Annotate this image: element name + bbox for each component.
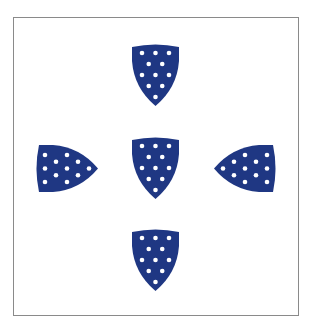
shield-left-bezant bbox=[43, 153, 48, 158]
shield-right-bezant bbox=[232, 173, 237, 178]
shield-left-bezant bbox=[43, 166, 48, 171]
shield-top-bezant bbox=[146, 84, 151, 89]
shield-top-bezant bbox=[140, 73, 145, 78]
shield-right-bezant bbox=[265, 166, 270, 171]
shield-top-bezant bbox=[167, 73, 172, 78]
shield-right-bezant bbox=[243, 166, 248, 171]
shield-bottom-bezant bbox=[146, 269, 151, 274]
shield-right-bezant bbox=[254, 173, 259, 178]
shield-top-bezant bbox=[146, 62, 151, 67]
shield-bottom-bezant bbox=[140, 258, 145, 263]
shield-center-bezant bbox=[140, 166, 145, 171]
shield-top-bezant bbox=[153, 73, 158, 78]
shield-center-bezant bbox=[153, 144, 158, 149]
shield-right-bezant bbox=[232, 159, 237, 164]
shield-left-bezant bbox=[54, 173, 59, 178]
shield-center-bezant bbox=[160, 155, 165, 160]
shield-right-bezant bbox=[265, 153, 270, 158]
shield-bottom-bezant bbox=[167, 258, 172, 263]
shield-bottom-bezant bbox=[160, 247, 165, 252]
shield-left-bezant bbox=[87, 166, 92, 171]
shield-center-bezant bbox=[167, 166, 172, 171]
shield-center-bezant bbox=[146, 177, 151, 182]
shield-center-bezant bbox=[160, 177, 165, 182]
shield-bottom-bezant bbox=[160, 269, 165, 274]
shield-top-bezant bbox=[140, 51, 145, 56]
shield-right-bezant bbox=[254, 159, 259, 164]
shield-bottom-bezant bbox=[140, 236, 145, 241]
shield-center-bezant bbox=[153, 188, 158, 193]
shield-center-bezant bbox=[146, 155, 151, 160]
shield-center bbox=[132, 138, 179, 200]
shield-bottom-bezant bbox=[146, 247, 151, 252]
shield-top bbox=[132, 45, 179, 107]
shield-right bbox=[214, 145, 276, 192]
shield-top-bezant bbox=[167, 51, 172, 56]
shield-top-bezant bbox=[153, 51, 158, 56]
shield-top-bezant bbox=[160, 84, 165, 89]
shield-top-bezant bbox=[153, 95, 158, 100]
shield-left-bezant bbox=[54, 159, 59, 164]
shield-left-bezant bbox=[76, 173, 81, 178]
shield-bottom-bezant bbox=[153, 280, 158, 285]
shield-right-bezant bbox=[221, 166, 226, 171]
shield-left-bezant bbox=[65, 180, 70, 185]
shield-center-bezant bbox=[140, 144, 145, 149]
shield-left-bezant bbox=[76, 159, 81, 164]
shield-right-bezant bbox=[243, 180, 248, 185]
shield-top-bezant bbox=[160, 62, 165, 67]
shield-bottom bbox=[132, 230, 179, 292]
shield-center-bezant bbox=[167, 144, 172, 149]
shield-left-bezant bbox=[43, 180, 48, 185]
shield-left-bezant bbox=[65, 166, 70, 171]
shield-left-bezant bbox=[65, 153, 70, 158]
shield-bottom-bezant bbox=[153, 236, 158, 241]
shield-center-bezant bbox=[153, 166, 158, 171]
quinas-figure bbox=[0, 0, 309, 332]
shield-bottom-bezant bbox=[167, 236, 172, 241]
shield-left bbox=[37, 145, 99, 192]
shield-right-bezant bbox=[243, 153, 248, 158]
shield-right-bezant bbox=[265, 180, 270, 185]
shield-bottom-bezant bbox=[153, 258, 158, 263]
